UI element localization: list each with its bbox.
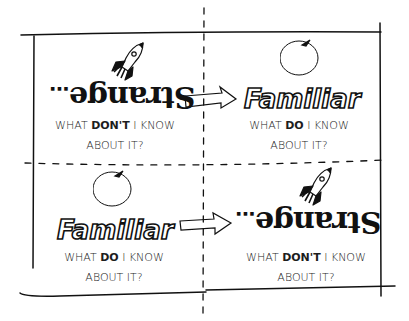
familiar-word: Familiar — [244, 84, 361, 114]
quadrant-question: WHAT DO I KNOW ABOUT IT? — [29, 248, 199, 288]
familiar-label: Familiar — [244, 84, 361, 114]
quadrant-question: WHAT DON'T I KNOW ABOUT IT? — [221, 248, 391, 288]
quadrant-question: WHAT DO I KNOW ABOUT IT? — [214, 116, 384, 156]
strange-label: Strange... — [236, 205, 381, 240]
apple-icon — [93, 168, 133, 208]
familiar-word: Familiar — [57, 215, 174, 245]
rocket-icon — [296, 165, 336, 207]
familiar-label: Familiar — [57, 215, 174, 245]
strange-word: Strange — [70, 80, 196, 115]
frame-top-line — [21, 32, 381, 35]
strange-word: Strange — [256, 205, 382, 240]
strange-ellipsis: ... — [50, 82, 70, 106]
quadrant-question: WHAT DON'T I KNOW ABOUT IT? — [30, 116, 200, 156]
vertical-dashed-divider — [203, 8, 204, 316]
strange-label: Strange... — [50, 80, 195, 115]
frame-bottom-left-line — [20, 292, 206, 296]
rocket-icon — [108, 40, 148, 82]
apple-icon — [280, 37, 320, 77]
strange-ellipsis: ... — [236, 207, 256, 231]
arrow-familiar-to-strange — [180, 213, 231, 234]
